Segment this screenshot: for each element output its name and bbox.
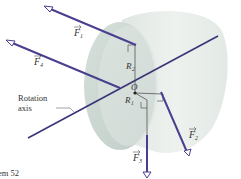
- svg-text:R: R: [124, 95, 131, 105]
- svg-text:1: 1: [131, 100, 134, 106]
- svg-text:3: 3: [138, 158, 142, 164]
- axis-leader-line: [56, 108, 74, 112]
- svg-text:2: 2: [195, 135, 198, 141]
- svg-text:4: 4: [40, 62, 43, 68]
- torque-diagram: F 1 F 4 F 3 F 2 R 2 R 1 O Rotation axis …: [0, 0, 241, 179]
- label-origin: O: [131, 82, 138, 92]
- svg-text:1: 1: [80, 33, 83, 39]
- label-rotation-axis-line1: Rotation: [18, 93, 48, 103]
- caption-fragment: em 52: [0, 168, 19, 178]
- label-rotation-axis-line2: axis: [18, 103, 32, 113]
- svg-text:2: 2: [132, 66, 135, 72]
- label-F3: F 3: [132, 150, 142, 164]
- svg-text:R: R: [125, 61, 132, 71]
- label-F1: F 1: [73, 25, 83, 39]
